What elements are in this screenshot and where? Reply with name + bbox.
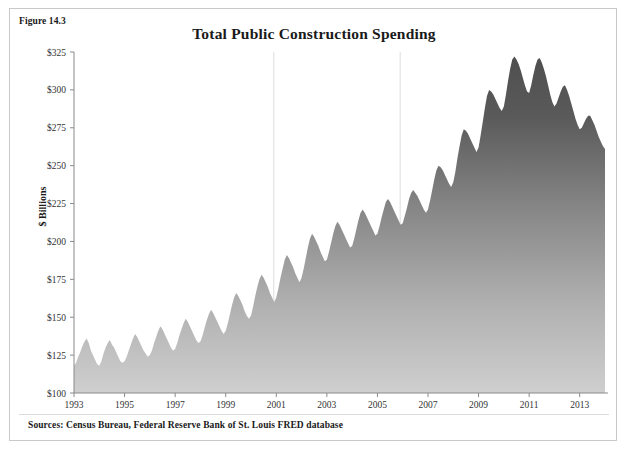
x-axis-ticks: 1993199519971999200120032005200720092011… (65, 393, 590, 410)
y-tick-label: $325 (47, 48, 66, 58)
y-tick-label: $150 (47, 313, 66, 323)
x-tick-label: 2009 (469, 400, 488, 410)
x-tick-label: 2007 (419, 400, 438, 410)
y-axis-ticks: $100$125$150$175$200$225$250$275$300$325 (47, 48, 74, 399)
x-tick-label: 2003 (317, 400, 336, 410)
sources-divider (19, 414, 609, 415)
x-tick-label: 1993 (65, 400, 84, 410)
figure-frame: Figure 14.3 Total Public Construction Sp… (9, 8, 617, 441)
y-tick-label: $175 (47, 275, 66, 285)
y-tick-label: $300 (47, 85, 66, 95)
x-tick-label: 1999 (216, 400, 235, 410)
y-tick-label: $275 (47, 123, 66, 133)
area-chart-plot: $100$125$150$175$200$225$250$275$300$325… (10, 9, 618, 442)
x-tick-label: 1995 (115, 400, 134, 410)
sources-note: Sources: Census Bureau, Federal Reserve … (28, 420, 343, 430)
y-tick-label: $100 (47, 389, 66, 399)
spending-area-path (74, 57, 618, 393)
y-tick-label: $125 (47, 351, 66, 361)
x-tick-label: 2011 (520, 400, 539, 410)
y-tick-label: $200 (47, 237, 66, 247)
x-tick-label: 2013 (570, 400, 589, 410)
y-tick-label: $225 (47, 199, 66, 209)
x-tick-label: 1997 (166, 400, 185, 410)
spending-area-series (74, 57, 618, 393)
x-tick-label: 2001 (267, 400, 286, 410)
x-tick-label: 2005 (368, 400, 387, 410)
y-tick-label: $250 (47, 161, 66, 171)
